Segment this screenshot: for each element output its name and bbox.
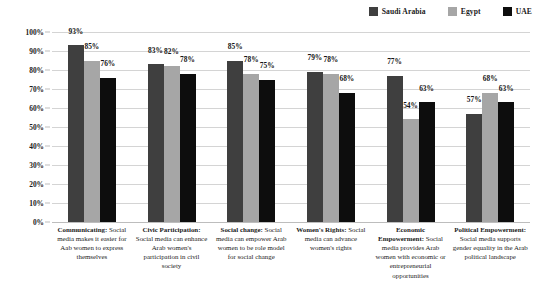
y-axis-tick-label: 70% <box>29 85 44 94</box>
bar-slot: 78% <box>180 32 196 222</box>
bar[interactable] <box>466 114 482 222</box>
bar[interactable] <box>323 74 339 222</box>
bar-slot: 82% <box>164 32 180 222</box>
bar-group: 57%68%63% <box>450 32 530 222</box>
bar[interactable] <box>180 74 196 222</box>
bar[interactable] <box>498 102 514 222</box>
x-axis-category-label: Political Empowerment: Social media supp… <box>450 225 530 303</box>
bar-group: 79%78%68% <box>291 32 371 222</box>
y-axis-tick-label: 10% <box>29 199 44 208</box>
bar-slot: 63% <box>419 32 435 222</box>
y-axis-tick-label: 50% <box>29 123 44 132</box>
bar[interactable] <box>339 93 355 222</box>
y-axis-tick-mark <box>45 165 50 166</box>
legend-item-saudi-arabia: Saudi Arabia <box>369 7 426 16</box>
x-axis-labels: Communicating: Social media makes it eas… <box>52 225 530 303</box>
bar[interactable] <box>307 72 323 222</box>
x-axis-category-label: Economic Empowerment: Social media provi… <box>371 225 451 303</box>
bar-group-bars: 57%68%63% <box>450 32 530 222</box>
bar-value-label: 63% <box>499 85 514 94</box>
y-axis-tick-label: 40% <box>29 142 44 151</box>
legend-swatch-saudi-arabia <box>369 7 378 16</box>
bar[interactable] <box>482 93 498 222</box>
bar-value-label: 68% <box>483 75 498 84</box>
bar-slot: 57% <box>466 32 482 222</box>
bar[interactable] <box>243 74 259 222</box>
bar-slot: 54% <box>403 32 419 222</box>
bar-value-label: 78% <box>180 56 195 65</box>
bar-slot: 85% <box>84 32 100 222</box>
bar-group: 77%54%63% <box>371 32 451 222</box>
bar-slot: 75% <box>259 32 275 222</box>
bar[interactable] <box>164 66 180 222</box>
bar-value-label: 75% <box>260 62 275 71</box>
y-axis-tick-label: 90% <box>29 47 44 56</box>
y-axis-tick-mark <box>45 89 50 90</box>
y-axis-tick-label: 80% <box>29 66 44 75</box>
bar-slot: 83% <box>148 32 164 222</box>
bar-value-label: 85% <box>228 43 243 52</box>
bar[interactable] <box>419 102 435 222</box>
bar-value-label: 82% <box>164 49 179 58</box>
bar-value-label: 78% <box>323 56 338 65</box>
legend-label-saudi-arabia: Saudi Arabia <box>382 7 426 16</box>
bar-group-bars: 79%78%68% <box>291 32 371 222</box>
bar-groups: 93%85%76%83%82%78%85%78%75%79%78%68%77%5… <box>52 32 530 222</box>
bar-slot: 85% <box>227 32 243 222</box>
bar-value-label: 79% <box>307 54 322 63</box>
bar-value-label: 93% <box>68 28 83 37</box>
y-axis-tick-label: 30% <box>29 161 44 170</box>
bar-value-label: 77% <box>387 58 402 67</box>
y-axis-tick-mark <box>45 32 50 33</box>
legend-label-uae: UAE <box>516 7 532 16</box>
y-axis-tick-label: 20% <box>29 180 44 189</box>
bar-group: 93%85%76% <box>52 32 132 222</box>
y-axis-tick-mark <box>45 108 50 109</box>
x-axis-category-label: Women's Rights: Social media can advance… <box>291 225 371 303</box>
bar-value-label: 68% <box>339 75 354 84</box>
legend-item-egypt: Egypt <box>448 7 481 16</box>
y-axis: 100%90%80%70%60%50%40%30%20%10%0% <box>0 32 50 222</box>
bar-group: 83%82%78% <box>132 32 212 222</box>
bar-slot: 63% <box>498 32 514 222</box>
y-axis-tick-mark <box>45 184 50 185</box>
bar-value-label: 63% <box>419 85 434 94</box>
bar-value-label: 78% <box>244 56 259 65</box>
bar-group-bars: 93%85%76% <box>52 32 132 222</box>
bar-slot: 78% <box>243 32 259 222</box>
bar-value-label: 85% <box>84 43 99 52</box>
y-axis-tick-label: 0% <box>33 218 44 227</box>
bar-group-bars: 83%82%78% <box>132 32 212 222</box>
legend-label-egypt: Egypt <box>461 7 481 16</box>
bar-slot: 78% <box>323 32 339 222</box>
legend-swatch-egypt <box>448 7 457 16</box>
y-axis-tick-mark <box>45 146 50 147</box>
bar-value-label: 83% <box>148 47 163 56</box>
bar-slot: 76% <box>100 32 116 222</box>
bar[interactable] <box>259 80 275 223</box>
bar-value-label: 57% <box>467 96 482 105</box>
bar[interactable] <box>227 61 243 223</box>
legend-item-uae: UAE <box>503 7 532 16</box>
bar[interactable] <box>387 76 403 222</box>
bar[interactable] <box>403 119 419 222</box>
plot-area: 93%85%76%83%82%78%85%78%75%79%78%68%77%5… <box>52 32 530 222</box>
bar-value-label: 76% <box>100 60 115 69</box>
bar-slot: 68% <box>482 32 498 222</box>
legend-swatch-uae <box>503 7 512 16</box>
bar-slot: 79% <box>307 32 323 222</box>
bar-value-label: 54% <box>403 102 418 111</box>
y-axis-tick-mark <box>45 70 50 71</box>
chart-legend: Saudi Arabia Egypt UAE <box>369 7 532 16</box>
x-axis-category-label: Communicating: Social media makes it eas… <box>52 225 132 303</box>
y-axis-tick-label: 60% <box>29 104 44 113</box>
y-axis-tick-label: 100% <box>26 28 44 37</box>
bar[interactable] <box>148 64 164 222</box>
x-axis-category-label: Civic Participation: Social media can en… <box>132 225 212 303</box>
x-axis-category-label: Social change: Social media can empower … <box>211 225 291 303</box>
bar-group: 85%78%75% <box>211 32 291 222</box>
bar[interactable] <box>68 45 84 222</box>
bar[interactable] <box>100 78 116 222</box>
y-axis-tick-mark <box>45 51 50 52</box>
bar[interactable] <box>84 61 100 223</box>
